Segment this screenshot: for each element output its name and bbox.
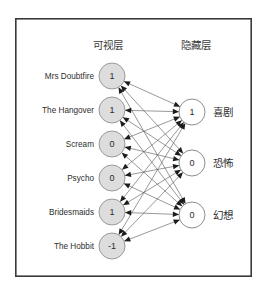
visible-node-value-1: 1 bbox=[109, 105, 114, 115]
genre-label-2: 幻想 bbox=[213, 209, 233, 221]
movie-label-2: Scream bbox=[66, 140, 94, 149]
neural-network-diagram: 可视层 隐藏层 1Mrs Doubtfire1The Hangover0Scre… bbox=[0, 0, 271, 293]
visible-node-value-5: -1 bbox=[108, 241, 116, 251]
movie-label-1: The Hangover bbox=[42, 106, 94, 115]
movie-label-4: Bridesmaids bbox=[49, 208, 94, 217]
visible-node-value-3: 0 bbox=[109, 173, 114, 183]
hidden-node-value-0: 1 bbox=[189, 107, 194, 117]
genre-label-1: 恐怖 bbox=[213, 157, 233, 169]
movie-label-3: Psycho bbox=[67, 174, 94, 183]
movie-label-5: The Hobbit bbox=[54, 242, 95, 251]
visible-layer-header: 可视层 bbox=[93, 39, 123, 51]
hidden-node-value-2: 0 bbox=[189, 210, 194, 220]
visible-node-value-2: 0 bbox=[109, 139, 114, 149]
hidden-layer-header: 隐藏层 bbox=[181, 39, 211, 51]
figure-root: 可视层 隐藏层 1Mrs Doubtfire1The Hangover0Scre… bbox=[0, 0, 271, 293]
visible-node-value-4: 1 bbox=[109, 207, 114, 217]
visible-node-value-0: 1 bbox=[109, 71, 114, 81]
hidden-node-value-1: 0 bbox=[189, 158, 194, 168]
genre-label-0: 喜剧 bbox=[213, 106, 233, 118]
movie-label-0: Mrs Doubtfire bbox=[45, 72, 95, 81]
